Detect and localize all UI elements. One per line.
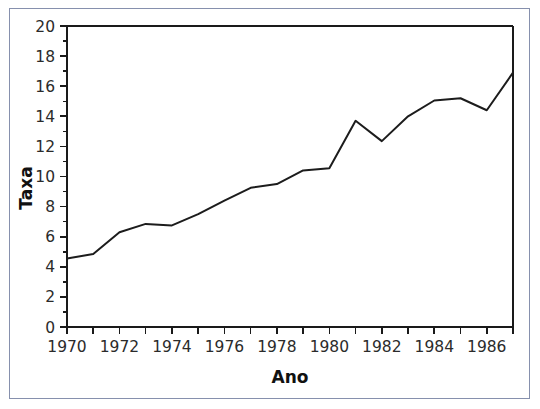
y-tick-label: 20 bbox=[35, 18, 55, 36]
x-tick-label: 1980 bbox=[310, 338, 349, 356]
x-axis-major-ticks bbox=[67, 327, 487, 334]
x-tick-label: 1984 bbox=[415, 338, 454, 356]
y-axis-tick-labels: 02468101214161820 bbox=[35, 18, 55, 337]
chart-figure: 02468101214161820 1970197219741976197819… bbox=[0, 0, 540, 409]
y-tick-label: 10 bbox=[35, 168, 55, 186]
line-chart: 02468101214161820 1970197219741976197819… bbox=[0, 0, 540, 409]
x-tick-label: 1974 bbox=[152, 338, 191, 356]
x-tick-label: 1976 bbox=[205, 338, 244, 356]
y-tick-label: 0 bbox=[45, 319, 55, 337]
x-axis-minor-ticks bbox=[93, 327, 513, 334]
y-tick-label: 8 bbox=[45, 198, 55, 216]
y-tick-label: 4 bbox=[45, 258, 55, 276]
x-axis-title: Ano bbox=[272, 367, 309, 387]
x-axis-tick-labels: 197019721974197619781980198219841986 bbox=[47, 338, 506, 356]
plot-container: 02468101214161820 1970197219741976197819… bbox=[0, 0, 540, 409]
y-axis-title: Taxa bbox=[16, 166, 36, 209]
y-tick-label: 18 bbox=[35, 48, 55, 66]
y-tick-label: 2 bbox=[45, 288, 55, 306]
x-tick-label: 1982 bbox=[362, 338, 401, 356]
y-tick-label: 12 bbox=[35, 138, 55, 156]
y-tick-label: 14 bbox=[35, 108, 55, 126]
data-series-line bbox=[67, 73, 513, 259]
x-tick-label: 1978 bbox=[257, 338, 296, 356]
x-tick-label: 1972 bbox=[100, 338, 139, 356]
x-tick-label: 1986 bbox=[467, 338, 506, 356]
x-tick-label: 1970 bbox=[47, 338, 86, 356]
y-tick-label: 6 bbox=[45, 228, 55, 246]
y-tick-label: 16 bbox=[35, 78, 55, 96]
